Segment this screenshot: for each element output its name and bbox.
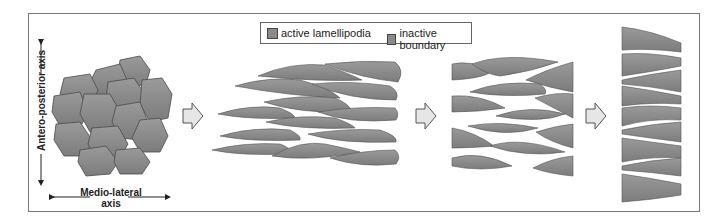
elongating-cells [212, 61, 401, 165]
cell [533, 156, 573, 176]
cell [622, 27, 681, 52]
cell [496, 109, 565, 119]
transition-arrow-2 [416, 103, 436, 129]
cell [622, 158, 681, 176]
cell [220, 129, 300, 141]
cell [490, 142, 565, 154]
medio-lateral-axis: Medio-lateral axis [52, 187, 168, 209]
convergent-extended-column [622, 27, 681, 202]
cell [536, 124, 573, 148]
cell [622, 174, 681, 202]
medio-lateral-axis-label: Medio-lateral [80, 187, 142, 198]
cell [452, 96, 505, 112]
cell [468, 123, 538, 132]
cell [470, 83, 546, 96]
round-cell-cluster [52, 56, 172, 176]
antero-posterior-axis: Antero-posterior axis [36, 42, 47, 183]
medio-lateral-axis-label-2: axis [101, 198, 121, 209]
transition-arrow-3 [586, 103, 606, 129]
diagram-canvas: Antero-posterior axis Medio-lateral axis [0, 0, 712, 224]
intercalating-cells [452, 57, 573, 176]
transition-arrow-1 [183, 103, 203, 129]
antero-posterior-axis-label: Antero-posterior axis [36, 49, 47, 151]
cell [308, 130, 396, 143]
cell [218, 107, 295, 119]
cell [452, 155, 512, 169]
